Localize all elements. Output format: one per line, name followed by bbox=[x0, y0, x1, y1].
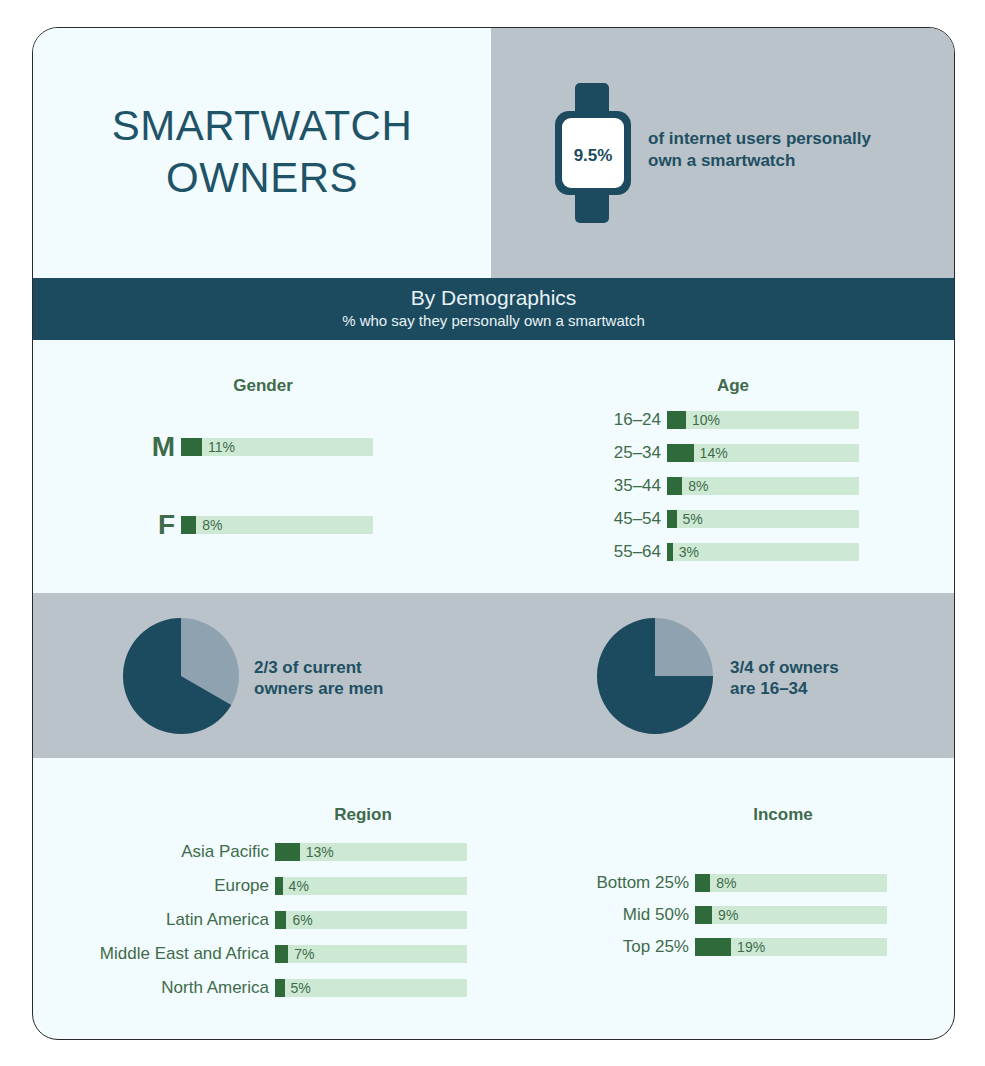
region-bar-label: Middle East and Africa bbox=[53, 944, 275, 964]
pie-gender-caption: 2/3 of current owners are men bbox=[254, 657, 383, 699]
age-bar-row: 55–643% bbox=[543, 543, 859, 561]
region-bar-fill bbox=[275, 911, 286, 929]
age-bar-fill bbox=[667, 477, 682, 495]
region-bar-row: North America5% bbox=[53, 979, 467, 997]
gender-bar-row: M11% bbox=[73, 438, 373, 456]
age-bar-label: 16–24 bbox=[543, 410, 667, 430]
income-bar-label: Mid 50% bbox=[503, 905, 695, 925]
age-bar-label: 25–34 bbox=[543, 443, 667, 463]
region-bar-row: Middle East and Africa7% bbox=[53, 945, 467, 963]
income-bar-track: 19% bbox=[695, 938, 887, 956]
age-bar-label: 45–54 bbox=[543, 509, 667, 529]
region-bar-row: Latin America6% bbox=[53, 911, 467, 929]
banner-subtitle: % who say they personally own a smartwat… bbox=[33, 312, 954, 329]
age-bar-row: 25–3414% bbox=[543, 444, 859, 462]
income-bar-value: 19% bbox=[737, 939, 765, 955]
region-bar-value: 7% bbox=[294, 946, 314, 962]
region-bar-track: 5% bbox=[275, 979, 467, 997]
pie-gender-line-2: owners are men bbox=[254, 678, 383, 699]
stat-text-line-2: own a smartwatch bbox=[648, 150, 871, 172]
gender-title: Gender bbox=[193, 376, 333, 396]
age-bar-track: 5% bbox=[667, 510, 859, 528]
age-bar-track: 10% bbox=[667, 411, 859, 429]
pie-age-caption: 3/4 of owners are 16–34 bbox=[730, 657, 839, 699]
age-bar-value: 14% bbox=[700, 445, 728, 461]
income-bar-row: Mid 50%9% bbox=[503, 906, 887, 924]
demographics-banner: By Demographics % who say they personall… bbox=[33, 278, 954, 340]
income-bar-label: Bottom 25% bbox=[503, 873, 695, 893]
income-bar-value: 9% bbox=[718, 907, 738, 923]
income-bar-row: Top 25%19% bbox=[503, 938, 887, 956]
income-bar-row: Bottom 25%8% bbox=[503, 874, 887, 892]
age-bar-label: 35–44 bbox=[543, 476, 667, 496]
income-bar-label: Top 25% bbox=[503, 937, 695, 957]
income-bar-fill bbox=[695, 938, 731, 956]
age-bar-fill bbox=[667, 411, 686, 429]
stat-value: 9.5% bbox=[574, 146, 613, 165]
pie-chart-age bbox=[595, 616, 715, 736]
region-bar-fill bbox=[275, 945, 288, 963]
pie-band: 2/3 of current owners are men 3/4 of own… bbox=[33, 593, 954, 758]
age-bar-fill bbox=[667, 444, 694, 462]
region-bar-value: 5% bbox=[291, 980, 311, 996]
region-bar-value: 13% bbox=[306, 844, 334, 860]
gender-bar-track: 11% bbox=[181, 438, 373, 456]
region-bar-label: Latin America bbox=[53, 910, 275, 930]
gender-bar-track: 8% bbox=[181, 516, 373, 534]
age-bar-row: 45–545% bbox=[543, 510, 859, 528]
age-bar-value: 10% bbox=[692, 412, 720, 428]
gender-bar-fill bbox=[181, 438, 202, 456]
age-bar-value: 8% bbox=[688, 478, 708, 494]
gender-bar-label: M bbox=[73, 431, 181, 463]
page-title: SMARTWATCH OWNERS bbox=[33, 100, 491, 204]
pie-age-line-1: 3/4 of owners bbox=[730, 657, 839, 678]
age-bar-row: 35–448% bbox=[543, 477, 859, 495]
age-bar-track: 3% bbox=[667, 543, 859, 561]
income-bar-fill bbox=[695, 906, 712, 924]
gender-bar-fill bbox=[181, 516, 196, 534]
region-bar-fill bbox=[275, 843, 300, 861]
region-bar-value: 6% bbox=[292, 912, 312, 928]
region-bar-track: 7% bbox=[275, 945, 467, 963]
region-bar-track: 6% bbox=[275, 911, 467, 929]
gender-bar-row: F8% bbox=[73, 516, 373, 534]
region-bar-fill bbox=[275, 979, 285, 997]
age-bar-value: 3% bbox=[679, 544, 699, 560]
stat-text-line-1: of internet users personally bbox=[648, 128, 871, 150]
income-bar-value: 8% bbox=[716, 875, 736, 891]
age-bar-label: 55–64 bbox=[543, 542, 667, 562]
title-line-2: OWNERS bbox=[33, 152, 491, 204]
region-bar-label: Asia Pacific bbox=[53, 842, 275, 862]
region-bar-track: 13% bbox=[275, 843, 467, 861]
region-bar-track: 4% bbox=[275, 877, 467, 895]
region-bar-value: 4% bbox=[289, 878, 309, 894]
hero-left-panel: SMARTWATCH OWNERS bbox=[33, 28, 491, 278]
age-bar-fill bbox=[667, 510, 677, 528]
income-bar-track: 8% bbox=[695, 874, 887, 892]
gender-bar-value: 8% bbox=[202, 517, 222, 533]
region-bar-row: Asia Pacific13% bbox=[53, 843, 467, 861]
age-title: Age bbox=[673, 376, 793, 396]
stat-description: of internet users personally own a smart… bbox=[648, 128, 871, 172]
age-bar-value: 5% bbox=[683, 511, 703, 527]
region-bar-label: Europe bbox=[53, 876, 275, 896]
age-bar-fill bbox=[667, 543, 673, 561]
pie-gender-line-1: 2/3 of current bbox=[254, 657, 383, 678]
pie-age-line-2: are 16–34 bbox=[730, 678, 839, 699]
region-title: Region bbox=[303, 805, 423, 825]
age-bar-row: 16–2410% bbox=[543, 411, 859, 429]
income-bar-fill bbox=[695, 874, 710, 892]
gender-bar-label: F bbox=[73, 509, 181, 541]
pie-chart-gender bbox=[121, 616, 241, 736]
smartwatch-icon: 9.5% bbox=[553, 83, 633, 223]
age-bar-track: 14% bbox=[667, 444, 859, 462]
infographic-card: SMARTWATCH OWNERS 9.5% of internet users… bbox=[32, 27, 955, 1040]
title-line-1: SMARTWATCH bbox=[33, 100, 491, 152]
age-bar-track: 8% bbox=[667, 477, 859, 495]
gender-bar-value: 11% bbox=[208, 439, 235, 455]
banner-title: By Demographics bbox=[33, 286, 954, 310]
region-bar-row: Europe4% bbox=[53, 877, 467, 895]
income-bar-track: 9% bbox=[695, 906, 887, 924]
region-bar-fill bbox=[275, 877, 283, 895]
region-bar-label: North America bbox=[53, 978, 275, 998]
